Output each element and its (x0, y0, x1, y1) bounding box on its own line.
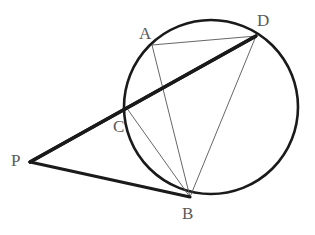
point-label-a: A (139, 25, 151, 42)
figure-canvas (0, 0, 315, 235)
thick-segment-pcd (30, 36, 256, 162)
point-label-d: D (257, 12, 269, 29)
thick-segment-pb (30, 162, 190, 197)
geometry-figure: P A C D B (0, 0, 315, 235)
point-label-p: P (11, 152, 20, 169)
main-circle (124, 20, 298, 194)
point-label-c: C (113, 118, 124, 135)
point-label-b: B (182, 205, 193, 222)
chord-db (190, 36, 256, 197)
